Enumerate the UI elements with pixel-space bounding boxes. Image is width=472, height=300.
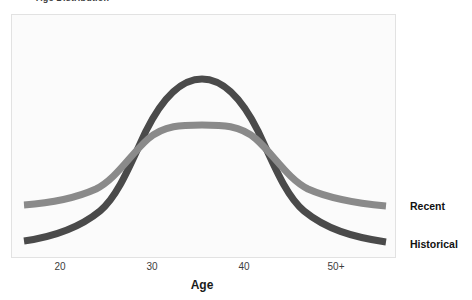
series-label-recent: Recent	[410, 200, 445, 212]
plot-area	[11, 14, 396, 258]
chart-title: Age Distribution	[36, 0, 109, 3]
chart-root: Age Distribution 20 30 40 50+ Age Recent…	[0, 0, 472, 300]
x-axis-title: Age	[191, 278, 214, 292]
x-tick-label-30: 30	[146, 261, 157, 272]
series-line-recent	[24, 125, 386, 206]
x-tick-label-50plus: 50+	[328, 261, 345, 272]
plot-svg	[12, 15, 397, 259]
x-tick-label-20: 20	[54, 261, 65, 272]
chart-title-strip: Age Distribution	[0, 0, 472, 9]
series-line-historical	[24, 79, 386, 242]
x-tick-label-40: 40	[238, 261, 249, 272]
series-label-historical: Historical	[410, 238, 458, 250]
